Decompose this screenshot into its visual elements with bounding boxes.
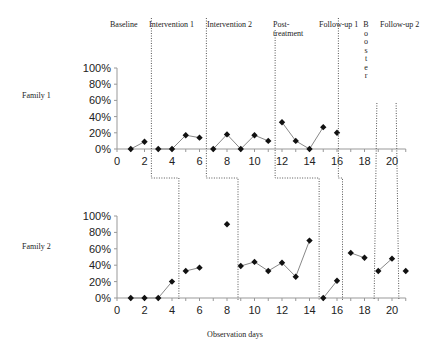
x-tick-label: 12	[276, 155, 288, 167]
data-point-marker	[196, 134, 202, 140]
data-point-marker	[128, 295, 134, 301]
data-point-marker	[196, 264, 202, 270]
x-tick-label: 6	[196, 304, 202, 316]
phase-labels: BaselineIntervention 1Intervention 2Post…	[110, 20, 419, 80]
data-point-marker	[320, 124, 326, 130]
panel-family-2: Family 20%20%40%60%80%100%02468101214161…	[22, 210, 409, 316]
data-line	[282, 122, 323, 149]
panel-family-1: Family 10%20%40%60%80%100%02468101214161…	[22, 62, 406, 167]
x-tick-label: 18	[358, 304, 370, 316]
x-tick-label: 16	[331, 155, 343, 167]
x-tick-label: 14	[303, 155, 315, 167]
x-tick-label: 20	[386, 304, 398, 316]
phase-label-baseline: Baseline	[110, 20, 138, 29]
data-line	[131, 282, 172, 298]
x-tick-label: 10	[248, 304, 260, 316]
data-point-marker	[224, 221, 230, 227]
data-point-marker	[128, 146, 134, 152]
x-tick-label: 18	[358, 155, 370, 167]
y-tick-label: 20%	[89, 276, 111, 288]
x-axis-title: Observation days	[207, 330, 263, 339]
data-point-marker	[265, 138, 271, 144]
x-tick-label: 20	[386, 155, 398, 167]
family-label: Family 2	[22, 242, 51, 251]
data-point-marker	[183, 268, 189, 274]
data-point-marker	[306, 146, 312, 152]
data-point-marker	[141, 295, 147, 301]
y-tick-label: 60%	[89, 243, 111, 255]
data-point-marker	[306, 237, 312, 243]
y-tick-label: 100%	[83, 210, 111, 222]
x-tick-label: 8	[224, 155, 230, 167]
data-point-marker	[251, 259, 257, 265]
data-point-marker	[155, 146, 161, 152]
data-point-marker	[141, 139, 147, 145]
data-point-marker	[403, 268, 409, 274]
x-tick-label: 2	[141, 155, 147, 167]
data-point-marker	[238, 263, 244, 269]
x-tick-label: 8	[224, 304, 230, 316]
y-tick-label: 0%	[95, 292, 111, 304]
y-tick-label: 40%	[89, 111, 111, 123]
data-line	[378, 259, 392, 271]
x-tick-label: 4	[169, 304, 175, 316]
x-tick-label: 16	[331, 304, 343, 316]
x-tick-label: 6	[196, 155, 202, 167]
data-line	[323, 281, 337, 298]
single-case-design-chart: Family 10%20%40%60%80%100%02468101214161…	[0, 0, 436, 357]
data-point-marker	[334, 130, 340, 136]
phase-label-follow-up-2: Follow-up 2	[380, 20, 419, 29]
y-tick-label: 100%	[83, 62, 111, 74]
data-point-marker	[265, 268, 271, 274]
data-point-marker	[348, 250, 354, 256]
data-line	[158, 135, 199, 149]
y-tick-label: 60%	[89, 94, 111, 106]
x-tick-label: 14	[303, 304, 315, 316]
y-tick-label: 80%	[89, 226, 111, 238]
x-tick-label: 12	[276, 304, 288, 316]
family-label: Family 1	[22, 91, 51, 100]
y-tick-label: 0%	[95, 143, 111, 155]
phase-label-post-treatment: Post-	[273, 20, 290, 29]
x-tick-label: 0	[114, 155, 120, 167]
x-tick-label: 10	[248, 155, 260, 167]
x-tick-label: 2	[141, 304, 147, 316]
phase-label-post-treatment: treatment	[273, 29, 304, 38]
y-tick-label: 20%	[89, 127, 111, 139]
x-tick-label: 4	[169, 155, 175, 167]
data-point-marker	[361, 255, 367, 261]
phase-label-booster: r	[365, 71, 368, 80]
x-tick-label: 0	[114, 304, 120, 316]
y-tick-label: 80%	[89, 78, 111, 90]
phase-label-intervention-2: Intervention 2	[207, 20, 252, 29]
phase-label-follow-up-1: Follow-up 1	[319, 20, 358, 29]
phase-label-intervention-1: Intervention 1	[149, 20, 194, 29]
data-line	[241, 241, 310, 277]
y-tick-label: 40%	[89, 259, 111, 271]
